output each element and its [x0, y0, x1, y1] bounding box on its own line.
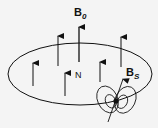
b0-label: B0: [74, 6, 87, 21]
dipole-source: [93, 79, 141, 122]
field-diagram: B0 N BS: [0, 0, 158, 128]
diagram-canvas: B0 N BS: [0, 0, 158, 128]
bs-label: BS: [126, 66, 140, 81]
bs-arrow: [108, 79, 123, 122]
north-label: N: [75, 70, 82, 80]
